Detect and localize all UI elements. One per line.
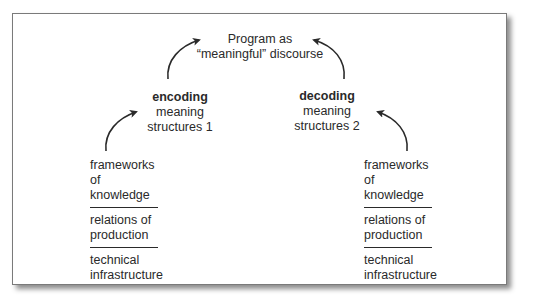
right-item-2-line2: production — [364, 228, 432, 243]
decoding-line2: structures 2 — [287, 119, 367, 134]
program-label: Program as “meaningful” discourse — [195, 32, 325, 62]
right-item-1-line2: of knowledge — [364, 173, 432, 203]
right-divider-1 — [364, 207, 432, 209]
decoding-title: decoding — [287, 89, 367, 104]
decoding-node: decoding meaning structures 2 — [287, 89, 367, 134]
left-item-2-line2: production — [90, 228, 158, 243]
left-item-1-line1: frameworks — [90, 158, 158, 173]
right-technical-infrastructure: technical infrastructure — [364, 253, 432, 283]
right-relations-of-production: relations of production — [364, 213, 432, 243]
decoding-line1: meaning — [287, 104, 367, 119]
encoding-line1: meaning — [140, 105, 220, 120]
program-line2: “meaningful” discourse — [195, 47, 325, 62]
right-divider-2 — [364, 247, 432, 249]
right-item-3-line1: technical — [364, 253, 432, 268]
right-stack: frameworks of knowledge relations of pro… — [364, 158, 432, 283]
right-item-1-line1: frameworks — [364, 158, 432, 173]
left-stack: frameworks of knowledge relations of pro… — [90, 158, 158, 283]
arrow-right-stack-to-decoding — [378, 112, 407, 151]
left-relations-of-production: relations of production — [90, 213, 158, 243]
left-item-2-line1: relations of — [90, 213, 158, 228]
right-item-3-line2: infrastructure — [364, 268, 432, 283]
left-item-3-line2: infrastructure — [90, 268, 158, 283]
encoding-node: encoding meaning structures 1 — [140, 90, 220, 135]
left-frameworks-of-knowledge: frameworks of knowledge — [90, 158, 158, 203]
left-item-1-line2: of knowledge — [90, 173, 158, 203]
encoding-title: encoding — [140, 90, 220, 105]
arrow-left-stack-to-encoding — [106, 112, 136, 151]
left-item-3-line1: technical — [90, 253, 158, 268]
right-frameworks-of-knowledge: frameworks of knowledge — [364, 158, 432, 203]
right-item-2-line1: relations of — [364, 213, 432, 228]
left-technical-infrastructure: technical infrastructure — [90, 253, 158, 283]
left-divider-2 — [90, 247, 158, 249]
left-divider-1 — [90, 207, 158, 209]
encoding-line2: structures 1 — [140, 120, 220, 135]
program-line1: Program as — [195, 32, 325, 47]
